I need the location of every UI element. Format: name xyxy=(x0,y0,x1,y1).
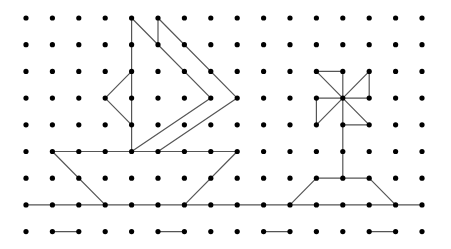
grid-dot xyxy=(76,202,81,207)
sailboat-sail-segment xyxy=(158,18,237,98)
grid-dot xyxy=(103,202,108,207)
grid-dot xyxy=(208,176,213,181)
grid-dot xyxy=(340,15,345,20)
grid-dot xyxy=(340,149,345,154)
grid-dot xyxy=(367,202,372,207)
grid-dot xyxy=(235,176,240,181)
grid-dot xyxy=(23,96,28,101)
grid-dot xyxy=(287,122,292,127)
grid-dot xyxy=(155,122,160,127)
grid-dot xyxy=(287,15,292,20)
sailboat-sail-segment xyxy=(132,98,211,151)
grid-dot xyxy=(208,122,213,127)
grid-dot xyxy=(155,202,160,207)
grid-dot xyxy=(261,229,266,234)
grid-dot xyxy=(261,96,266,101)
grid-dot xyxy=(23,229,28,234)
grid-dot xyxy=(419,96,424,101)
island-segment xyxy=(290,178,316,205)
grid-dot xyxy=(235,202,240,207)
grid-dot xyxy=(287,176,292,181)
grid-dot xyxy=(419,42,424,47)
grid-dot xyxy=(23,15,28,20)
grid-dot xyxy=(50,122,55,127)
grid-dot xyxy=(419,229,424,234)
grid-dot xyxy=(393,69,398,74)
grid-dot xyxy=(76,149,81,154)
grid-dot xyxy=(129,229,134,234)
grid-dot xyxy=(340,229,345,234)
grid-dot xyxy=(235,229,240,234)
grid-dot xyxy=(287,149,292,154)
grid-dot xyxy=(235,42,240,47)
grid-dot xyxy=(419,15,424,20)
grid-dot xyxy=(50,229,55,234)
grid-dot xyxy=(103,96,108,101)
grid-dot xyxy=(129,96,134,101)
grid-dot xyxy=(50,149,55,154)
grid-dot xyxy=(76,96,81,101)
grid-dot xyxy=(155,15,160,20)
grid-dot xyxy=(23,42,28,47)
grid-dot xyxy=(182,96,187,101)
grid-dot xyxy=(287,42,292,47)
grid-dot xyxy=(182,229,187,234)
island-segment xyxy=(369,178,395,205)
grid-dot xyxy=(314,96,319,101)
grid-dot xyxy=(340,96,345,101)
grid-dot xyxy=(23,69,28,74)
grid-dot xyxy=(340,122,345,127)
sailboat-sail-segment xyxy=(132,18,211,98)
grid-dot xyxy=(23,176,28,181)
grid-dot xyxy=(208,42,213,47)
grid-dot xyxy=(261,176,266,181)
grid-dot xyxy=(393,122,398,127)
grid-dot xyxy=(23,202,28,207)
grid-dot xyxy=(393,149,398,154)
grid-dot xyxy=(208,69,213,74)
grid-dot xyxy=(103,229,108,234)
grid-dot xyxy=(155,96,160,101)
sailboat-sail-segment xyxy=(105,98,131,125)
grid-dot xyxy=(76,229,81,234)
grid-dot xyxy=(367,176,372,181)
grid-dot xyxy=(182,42,187,47)
grid-dot xyxy=(103,15,108,20)
drawing-lines xyxy=(26,18,422,232)
grid-dot xyxy=(208,202,213,207)
grid-dot xyxy=(182,15,187,20)
grid-dot xyxy=(182,176,187,181)
grid-dot xyxy=(76,176,81,181)
grid-dot xyxy=(23,149,28,154)
grid-dot xyxy=(287,96,292,101)
grid-dot xyxy=(419,122,424,127)
grid-dot xyxy=(314,42,319,47)
grid-dot xyxy=(235,149,240,154)
grid-dot xyxy=(50,69,55,74)
grid-dot xyxy=(76,122,81,127)
grid-dot xyxy=(367,96,372,101)
grid-dot xyxy=(314,69,319,74)
grid-dot xyxy=(23,122,28,127)
grid-dot xyxy=(155,176,160,181)
grid-dot xyxy=(182,69,187,74)
grid-dot xyxy=(50,202,55,207)
grid-dot xyxy=(129,176,134,181)
grid-dot xyxy=(155,229,160,234)
grid-dot xyxy=(314,122,319,127)
grid-dot xyxy=(367,122,372,127)
grid-dot xyxy=(129,15,134,20)
grid-dot xyxy=(50,15,55,20)
grid-dot xyxy=(50,96,55,101)
island xyxy=(290,178,396,205)
grid-dot xyxy=(50,42,55,47)
grid-dot xyxy=(235,69,240,74)
grid-dot xyxy=(340,202,345,207)
grid-dot xyxy=(314,202,319,207)
grid-dot xyxy=(314,176,319,181)
grid-dot xyxy=(393,176,398,181)
grid-dot xyxy=(235,96,240,101)
sailboat-sail xyxy=(105,18,237,152)
grid-dot xyxy=(103,176,108,181)
grid-dot xyxy=(76,15,81,20)
